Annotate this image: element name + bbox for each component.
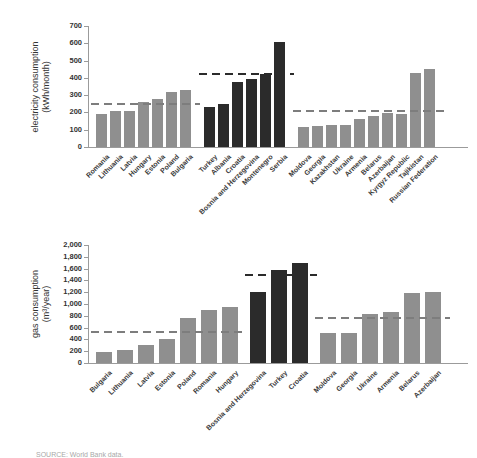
y-tick-mark [84, 78, 88, 79]
gas-y-axis-title-line1: gas consumption [30, 270, 41, 338]
bar [166, 92, 177, 147]
group-mean-dashed-line [91, 331, 247, 333]
y-tick-label: 1,600 [63, 265, 82, 273]
y-tick-label: 200 [69, 108, 82, 116]
y-tick-label: 700 [69, 22, 82, 30]
bar [117, 350, 133, 363]
y-tick-label: 2,000 [63, 241, 82, 249]
bar [404, 293, 420, 363]
y-tick-mark [84, 280, 88, 281]
bar [222, 307, 238, 363]
y-tick-mark [84, 339, 88, 340]
bar [96, 114, 107, 147]
bar [292, 263, 308, 363]
group-mean-dashed-line [199, 73, 294, 75]
y-tick-mark [84, 328, 88, 329]
bar [138, 345, 154, 363]
x-tick-label: Croatia [287, 369, 310, 392]
y-tick-mark [84, 61, 88, 62]
y-tick-mark [84, 351, 88, 352]
y-tick-label: 100 [69, 126, 82, 134]
bar [362, 314, 378, 363]
y-tick-label: 1,400 [63, 276, 82, 284]
bar [250, 292, 266, 363]
source-note: SOURCE: World Bank data. [36, 451, 123, 458]
bar [274, 42, 285, 147]
electricity-consumption-chart: 7006005004003002001000RomaniaLithuaniaLa… [88, 26, 468, 148]
group-mean-dashed-line [91, 103, 200, 105]
y-tick-mark [84, 269, 88, 270]
bar [159, 339, 175, 363]
y-tick-mark [84, 95, 88, 96]
x-tick-label: Georgia [334, 369, 358, 393]
group-mean-dashed-line [245, 274, 317, 276]
bar [201, 310, 217, 363]
y-tick-label: 1,000 [63, 300, 82, 308]
x-tick-label: Estonia [153, 369, 177, 393]
y-tick-mark [84, 130, 88, 131]
gas-y-axis-title-line2: (m³/year) [41, 270, 52, 338]
y-tick-label: 400 [69, 335, 82, 343]
y-tick-mark [84, 363, 88, 364]
bar [340, 125, 351, 147]
bar [424, 69, 435, 147]
y-tick-mark [84, 147, 88, 148]
bar [312, 126, 323, 147]
bar [180, 90, 191, 147]
y-tick-label: 600 [69, 39, 82, 47]
bar [326, 125, 337, 147]
bar [218, 104, 229, 147]
electricity-y-axis-title-line1: electricity consumption [30, 41, 41, 132]
y-tick-label: 600 [69, 324, 82, 332]
y-tick-mark [84, 245, 88, 246]
bar [320, 333, 336, 363]
bar [138, 102, 149, 147]
bar [260, 74, 271, 147]
bar [180, 318, 196, 363]
y-tick-label: 0 [78, 143, 82, 151]
y-tick-label: 400 [69, 74, 82, 82]
bar [298, 127, 309, 147]
y-tick-label: 200 [69, 347, 82, 355]
bar [232, 82, 243, 147]
bar [152, 99, 163, 147]
bar [368, 116, 379, 147]
y-tick-mark [84, 316, 88, 317]
x-tick-label: Turkey [267, 369, 289, 391]
x-tick-label: Moldova [312, 369, 338, 395]
y-tick-label: 0 [78, 359, 82, 367]
bar [96, 352, 112, 363]
y-tick-label: 1,200 [63, 288, 82, 296]
y-tick-mark [84, 257, 88, 258]
bar [383, 312, 399, 363]
bar [124, 111, 135, 147]
y-tick-label: 800 [69, 312, 82, 320]
y-tick-mark [84, 292, 88, 293]
figure-canvas: electricity consumption (kWh/month) 7006… [0, 0, 477, 458]
y-tick-mark [84, 112, 88, 113]
group-mean-dashed-line [293, 110, 444, 112]
bar [204, 107, 215, 147]
group-mean-dashed-line [315, 317, 450, 319]
bar [246, 79, 257, 147]
bar [382, 113, 393, 147]
gas-y-axis-title: gas consumption (m³/year) [30, 270, 52, 338]
x-tick-label: Armenia [375, 369, 400, 394]
y-tick-mark [84, 26, 88, 27]
bar [271, 270, 287, 363]
y-tick-label: 300 [69, 91, 82, 99]
electricity-y-axis-title-line2: (kWh/month) [41, 41, 52, 132]
electricity-y-axis-title: electricity consumption (kWh/month) [30, 41, 52, 132]
y-tick-label: 500 [69, 57, 82, 65]
y-tick-label: 1,800 [63, 253, 82, 261]
bar [354, 119, 365, 147]
bar [425, 292, 441, 363]
y-tick-mark [84, 304, 88, 305]
bar [396, 114, 407, 147]
bar [110, 111, 121, 147]
bar [341, 333, 357, 363]
gas-consumption-chart: 2,0001,8001,6001,4001,2001,0008006004002… [88, 245, 468, 364]
y-tick-mark [84, 43, 88, 44]
